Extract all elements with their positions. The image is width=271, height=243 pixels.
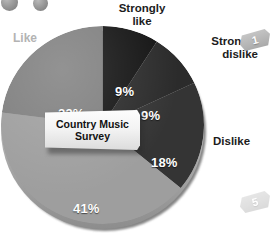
slice-value-largest: 41% <box>73 201 100 216</box>
pie-chart-figure: 9% 9% 18% 41% 23% Strongly like Strongly… <box>0 0 271 243</box>
page-tab-badge-1: 1 <box>240 29 270 51</box>
ribbon-tab-icon: 1 <box>240 29 270 51</box>
chart-title-banner: Country Music Survey <box>45 110 140 152</box>
label-strongly-like: Strongly like <box>109 2 175 27</box>
badge-number: 5 <box>251 195 260 208</box>
banner-title-text: Country Music Survey <box>56 118 129 142</box>
banner-sheet: Country Music Survey <box>45 110 140 150</box>
label-dislike: Dislike <box>213 135 271 148</box>
slice-value-strongly-like: 9% <box>115 84 134 99</box>
decorative-dot-icon <box>1 0 18 11</box>
page-tab-badge-5: 5 <box>240 191 270 213</box>
decorative-dot-icon <box>33 0 48 11</box>
badge-number: 1 <box>251 33 260 46</box>
ribbon-tab-icon: 5 <box>240 191 270 213</box>
slice-value-strongly-dislike: 9% <box>141 108 160 123</box>
label-like: Like <box>13 32 37 45</box>
slice-value-dislike: 18% <box>151 155 178 170</box>
